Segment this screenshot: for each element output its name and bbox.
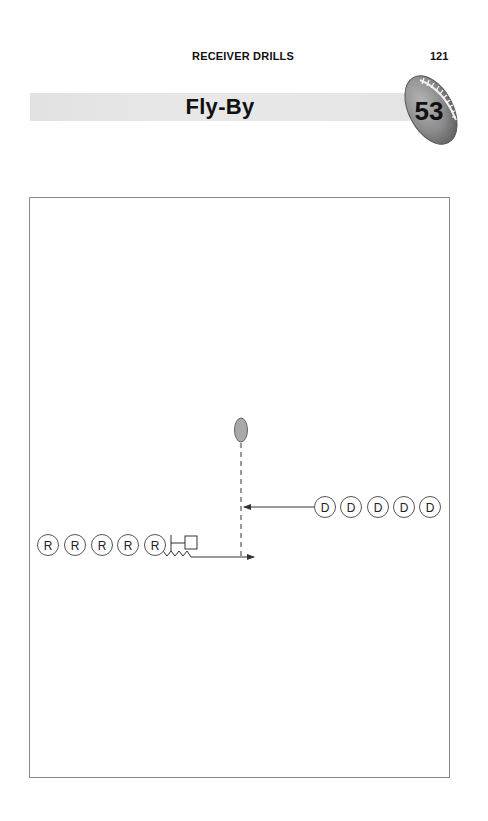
- drill-title: Fly-By: [30, 94, 410, 120]
- drill-title-banner: Fly-By: [30, 93, 410, 121]
- drill-number-badge: 53: [398, 72, 464, 148]
- page-number: 121: [430, 50, 448, 62]
- section-title: RECEIVER DRILLS: [192, 50, 294, 62]
- football-icon: 53: [398, 72, 464, 148]
- running-head: RECEIVER DRILLS 121: [0, 50, 488, 64]
- drill-diagram-frame: [29, 197, 450, 778]
- drill-number: 53: [415, 96, 444, 126]
